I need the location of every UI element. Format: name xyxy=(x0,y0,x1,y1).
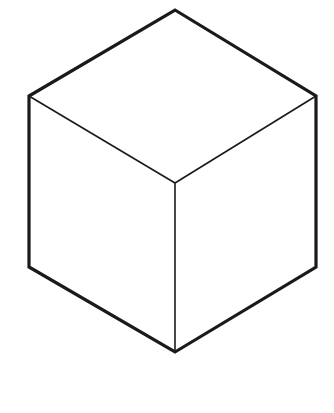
cube-drawing xyxy=(0,0,334,413)
figure-canvas xyxy=(0,0,334,413)
